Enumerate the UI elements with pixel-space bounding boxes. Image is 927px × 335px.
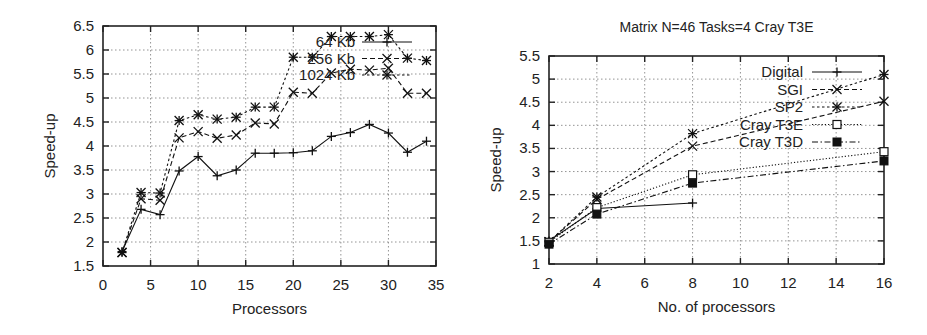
y-tick-label: 3.5 — [73, 161, 94, 178]
y-tick-label: 3.5 — [519, 139, 540, 156]
y-tick-label: 3 — [86, 185, 94, 202]
chart-processors-speedup: 051015202530351.522.533.544.555.566.5Pro… — [41, 17, 444, 317]
x-tick-label: 30 — [380, 276, 397, 293]
data-point-marker-asterisk-icon — [213, 115, 222, 124]
legend-item: Digital — [761, 63, 862, 80]
x-tick-label: 0 — [99, 276, 107, 293]
legend: DigitalSGISP2Cray T3ECray T3D — [739, 63, 862, 150]
data-point-marker-x-icon — [270, 119, 279, 128]
legend-marker-filled-square-icon — [833, 138, 841, 146]
legend-item: Cray T3D — [739, 133, 862, 150]
y-tick-label: 5.5 — [519, 47, 540, 64]
legend-label: Digital — [761, 63, 803, 80]
legend-label: 64 Kb — [316, 33, 355, 50]
figure: 051015202530351.522.533.544.555.566.5Pro… — [0, 0, 927, 335]
x-tick-label: 12 — [780, 274, 797, 291]
data-point-marker-x-icon — [308, 89, 317, 98]
y-tick-label: 6 — [86, 41, 94, 58]
legend-label: Cray T3E — [740, 116, 803, 133]
series-sgi — [545, 97, 889, 247]
legend-label: 256 Kb — [307, 50, 355, 67]
y-axis-label: Speed-up — [41, 113, 58, 178]
x-tick-label: 14 — [828, 274, 845, 291]
legend-label: 1024 Kb — [299, 66, 355, 83]
data-point-marker-filled-square-icon — [880, 157, 888, 165]
data-point-marker-asterisk-icon — [592, 192, 601, 201]
data-point-marker-asterisk-icon — [194, 110, 203, 119]
legend-item: 64 Kb — [316, 33, 412, 50]
data-point-marker-asterisk-icon — [270, 103, 279, 112]
y-tick-label: 4.5 — [73, 113, 94, 130]
data-point-marker-x-icon — [422, 89, 431, 98]
data-point-marker-filled-square-icon — [689, 179, 697, 187]
y-tick-label: 1.5 — [73, 257, 94, 274]
x-tick-label: 15 — [237, 276, 254, 293]
x-tick-label: 5 — [146, 276, 154, 293]
x-tick-label: 20 — [285, 276, 302, 293]
x-tick-label: 2 — [545, 274, 553, 291]
data-point-marker-plus-icon — [346, 128, 355, 137]
data-point-marker-plus-icon — [327, 132, 336, 141]
x-tick-label: 10 — [190, 276, 207, 293]
legend-item: SGI — [777, 81, 862, 98]
y-tick-label: 2.5 — [73, 209, 94, 226]
y-tick-label: 1.5 — [519, 232, 540, 249]
series-64-kb — [118, 120, 431, 256]
data-point-marker-x-icon — [232, 130, 241, 139]
y-tick-label: 1 — [532, 255, 540, 272]
plot-frame — [549, 56, 884, 264]
y-axis: 11.522.533.544.555.5 — [519, 47, 884, 272]
legend-marker-plus-icon — [833, 68, 842, 77]
data-point-marker-plus-icon — [422, 137, 431, 146]
data-point-marker-open-square-icon — [689, 171, 697, 179]
legend-item: SP2 — [775, 98, 862, 115]
data-point-marker-asterisk-icon — [688, 129, 697, 138]
x-tick-label: 16 — [876, 274, 893, 291]
data-point-marker-asterisk-icon — [365, 32, 374, 41]
legend: 64 Kb256 Kb1024 Kb — [299, 33, 412, 83]
y-tick-label: 2.5 — [519, 186, 540, 203]
data-point-marker-asterisk-icon — [232, 113, 241, 122]
series-sp2 — [545, 70, 889, 246]
y-tick-label: 5 — [532, 70, 540, 87]
gridlines — [549, 56, 884, 264]
legend-item: 1024 Kb — [299, 66, 412, 83]
legend-label: Cray T3D — [739, 133, 803, 150]
series-cray-t3d — [545, 157, 888, 248]
y-tick-label: 2 — [86, 233, 94, 250]
data-point-marker-open-square-icon — [880, 148, 888, 156]
data-point-marker-asterisk-icon — [289, 53, 298, 62]
data-point-marker-asterisk-icon — [175, 116, 184, 125]
data-point-marker-plus-icon — [175, 166, 184, 175]
x-tick-label: 8 — [688, 274, 696, 291]
legend-label: SP2 — [775, 98, 803, 115]
data-point-marker-asterisk-icon — [137, 188, 146, 197]
y-tick-label: 4 — [532, 116, 540, 133]
data-point-marker-plus-icon — [308, 146, 317, 155]
y-tick-label: 2 — [532, 209, 540, 226]
x-axis-label: No. of processors — [658, 298, 776, 315]
y-tick-label: 3 — [532, 163, 540, 180]
chart-title: Matrix N=46 Tasks=4 Cray T3E — [619, 19, 813, 35]
y-tick-label: 4 — [86, 137, 94, 154]
plot-frame — [103, 26, 436, 266]
data-point-marker-plus-icon — [688, 198, 697, 207]
x-tick-label: 6 — [641, 274, 649, 291]
data-point-marker-filled-square-icon — [593, 210, 601, 218]
data-point-marker-asterisk-icon — [422, 56, 431, 65]
data-point-marker-asterisk-icon — [118, 248, 127, 257]
y-tick-label: 5 — [86, 89, 94, 106]
data-point-marker-plus-icon — [365, 120, 374, 129]
x-tick-label: 10 — [732, 274, 749, 291]
legend-label: SGI — [777, 81, 803, 98]
data-point-marker-asterisk-icon — [251, 103, 260, 112]
data-point-marker-asterisk-icon — [384, 30, 393, 39]
legend-marker-asterisk-icon — [383, 71, 392, 80]
data-point-marker-asterisk-icon — [156, 189, 165, 198]
data-point-marker-plus-icon — [270, 149, 279, 158]
y-tick-label: 4.5 — [519, 93, 540, 110]
series-256-kb — [118, 64, 431, 257]
legend-marker-asterisk-icon — [833, 103, 842, 112]
data-point-marker-plus-icon — [289, 148, 298, 157]
y-tick-label: 6.5 — [73, 17, 94, 34]
